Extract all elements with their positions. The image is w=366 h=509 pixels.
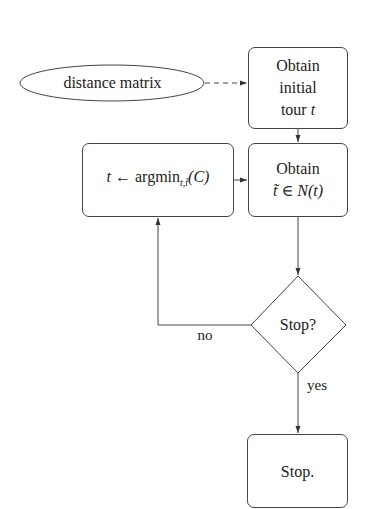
neighbor-box: Obtain t̃ ∈ N(t) xyxy=(248,143,348,217)
end-label: Stop. xyxy=(281,462,314,481)
init-line1: Obtain xyxy=(276,55,320,77)
edge-label-yes: yes xyxy=(302,376,332,395)
neighbor-line2: t̃ ∈ N(t) xyxy=(273,180,323,202)
edge-decision-to-update xyxy=(158,218,251,325)
update-formula: t ← argmint,t̃(C) xyxy=(107,167,210,192)
init-box: Obtain initial tour t xyxy=(248,47,348,129)
end-box: Stop. xyxy=(247,434,348,508)
edge-label-no: no xyxy=(192,326,218,345)
update-box: t ← argmint,t̃(C) xyxy=(82,143,234,217)
neighbor-line1: Obtain xyxy=(273,158,323,180)
input-ellipse-label: distance matrix xyxy=(20,73,205,92)
decision-label: Stop? xyxy=(258,315,338,334)
init-line3: tour t xyxy=(276,99,320,121)
init-line2: initial xyxy=(276,77,320,99)
